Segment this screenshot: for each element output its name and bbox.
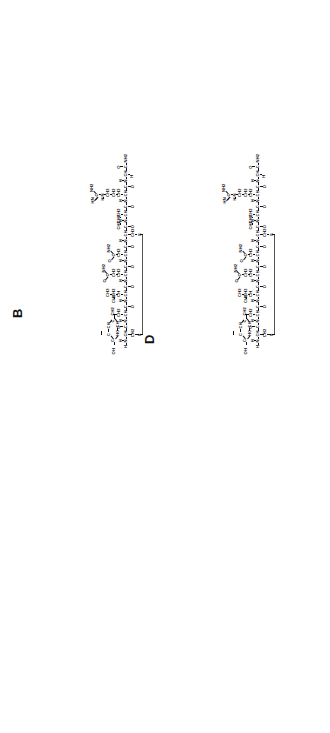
bond — [121, 194, 123, 195]
bond — [258, 188, 259, 191]
ch2-label: CH2 — [263, 329, 267, 338]
ch2-label: CH2 — [244, 188, 248, 197]
bond — [258, 248, 259, 251]
backbone-ca: CH — [256, 210, 260, 216]
backbone-ca: CH — [124, 210, 128, 216]
bond — [253, 314, 255, 315]
bond — [116, 254, 118, 255]
bond — [122, 180, 124, 181]
bond — [258, 237, 259, 240]
bond — [258, 308, 259, 311]
bond — [248, 274, 250, 275]
oh-label: OH — [244, 348, 248, 354]
backbone-n: N — [256, 339, 260, 342]
bond — [122, 200, 124, 201]
bond — [258, 268, 259, 271]
figure-canvas: A HNHCHCH2SCONCHCOHCH2OHCCHCCHCHCCH2NCHC… — [0, 0, 330, 733]
carbonyl-o: O — [263, 245, 267, 248]
bond — [120, 217, 121, 219]
carbonyl-o: O — [131, 245, 135, 248]
bond — [258, 343, 259, 345]
bond — [126, 268, 127, 271]
bond — [126, 202, 127, 205]
highlight-bar — [233, 331, 235, 335]
highlight-bar — [101, 331, 103, 335]
carbonyl-o: O — [131, 305, 135, 308]
bond — [122, 300, 124, 301]
bond — [242, 294, 244, 295]
bond — [116, 274, 118, 275]
bond — [258, 282, 259, 285]
bond — [128, 234, 131, 235]
bond — [235, 197, 236, 198]
bond — [258, 257, 259, 260]
bond — [121, 294, 123, 295]
bond — [253, 274, 255, 275]
bond — [258, 163, 259, 165]
bond — [258, 228, 259, 231]
bond — [122, 320, 124, 321]
ch2-label: CH2 — [117, 268, 121, 277]
bond — [258, 197, 259, 200]
bond — [126, 297, 127, 300]
ch2-label: CH2 — [106, 188, 110, 197]
bond — [126, 163, 127, 165]
carbonyl-o: O — [249, 166, 253, 169]
bond — [126, 302, 127, 305]
bond — [254, 260, 256, 261]
backbone-ca: CH — [256, 290, 260, 296]
backbone-n: N — [124, 339, 128, 342]
carbonyl-o: O — [131, 285, 135, 288]
disulfide-bridge — [274, 234, 275, 335]
bond — [258, 302, 259, 305]
bond — [254, 320, 256, 321]
bond — [126, 228, 127, 231]
ch2-label: CH2 — [131, 228, 135, 237]
bond — [272, 234, 275, 235]
ch2-label: CH2 — [117, 308, 121, 317]
bond — [253, 214, 255, 215]
carbonyl-o: O — [263, 185, 267, 188]
ch2-label: CH2 — [131, 329, 135, 338]
backbone-n: N — [124, 219, 128, 222]
bond — [254, 280, 256, 281]
bond — [258, 337, 259, 339]
ch2-label: CH2 — [244, 268, 248, 277]
bond — [116, 294, 118, 295]
backbone-n: N — [256, 279, 260, 282]
carbonyl-o: O — [131, 205, 135, 208]
bond — [128, 174, 130, 175]
bond — [258, 182, 259, 185]
bond — [258, 323, 259, 325]
bond — [258, 317, 259, 320]
backbone-n: N — [256, 299, 260, 302]
backbone-n: N — [124, 239, 128, 242]
backbone-ca: CH — [256, 190, 260, 196]
bond — [258, 328, 259, 330]
bond — [114, 297, 115, 299]
backbone-ca: CH — [256, 230, 260, 236]
backbone-n: N — [124, 259, 128, 262]
bond — [126, 282, 127, 285]
bond — [248, 254, 250, 255]
backbone-n: N — [124, 319, 128, 322]
alpha-h: H — [262, 175, 266, 178]
carbonyl-o: O — [131, 185, 135, 188]
bond — [242, 194, 244, 195]
backbone-n: N — [256, 319, 260, 322]
bond — [258, 222, 259, 225]
bond — [260, 234, 263, 235]
ring-atom: C — [239, 333, 243, 336]
backbone-ca: CH — [124, 290, 128, 296]
bond — [110, 294, 112, 295]
bond — [126, 248, 127, 251]
ring-atom: C — [107, 333, 111, 336]
ch2-label: CH2 — [112, 188, 116, 197]
carbonyl-o: O — [263, 205, 267, 208]
bond — [254, 340, 256, 341]
panel-b-label: B — [10, 309, 25, 318]
backbone-c: C — [124, 325, 128, 328]
bond — [126, 217, 127, 220]
bond — [126, 317, 127, 320]
ch3-label: CH3 — [238, 288, 242, 297]
